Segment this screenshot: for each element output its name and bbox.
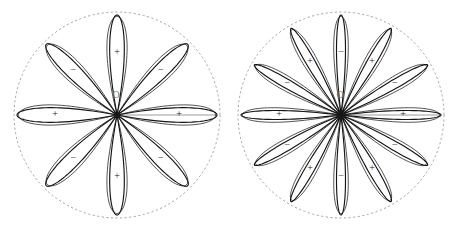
petal-sign-label: − (70, 152, 76, 163)
rose-petal (107, 115, 127, 215)
petal-sign-label: + (114, 170, 120, 181)
petal-sign-label: + (369, 55, 375, 66)
rose-petal (117, 44, 188, 115)
petal-sign-label: + (369, 162, 375, 173)
origin-label: O (112, 89, 119, 100)
twelve-petal-rose-svg: +−+−+−+−+−+−O (229, 0, 457, 230)
petal-outline-secondary (46, 44, 117, 115)
petal-outline (241, 111, 341, 120)
petal-sign-label: + (52, 108, 58, 119)
rose-petal (17, 105, 117, 125)
petal-sign-label: − (338, 46, 344, 57)
petal-outline (46, 44, 117, 115)
petal-outline-secondary (243, 108, 342, 123)
petal-sign-label: − (158, 64, 164, 75)
petal-sign-label: − (70, 64, 76, 75)
petal-outline (117, 44, 188, 115)
eight-petal-rose-svg: +−+−+−+−O (0, 0, 228, 230)
petal-outline (337, 115, 346, 215)
petal-sign-label: + (307, 162, 313, 173)
petal-outline (117, 115, 188, 186)
figure-left-eight-petal-rose: +−+−+−+−O (0, 0, 228, 230)
petal-outline-secondary (334, 115, 349, 214)
petal-sign-label: − (392, 77, 398, 88)
figure-right-twelve-petal-rose: +−+−+−+−+−+−O (229, 0, 457, 230)
petal-sign-label: + (400, 108, 406, 119)
petal-sign-label: − (158, 152, 164, 163)
petal-sign-label: − (338, 170, 344, 181)
rose-petal (241, 108, 341, 123)
origin-label: O (336, 89, 343, 100)
petal-sign-label: + (176, 108, 182, 119)
rose-petal (117, 115, 188, 186)
petal-sign-label: − (392, 139, 398, 150)
petal-sign-label: − (284, 139, 290, 150)
petal-sign-label: − (284, 77, 290, 88)
petal-outline-secondary (117, 44, 188, 115)
petal-outline (46, 115, 117, 186)
rose-petal (334, 115, 349, 215)
petal-sign-label: + (114, 46, 120, 57)
petal-sign-label: + (276, 108, 282, 119)
petal-outline (17, 108, 117, 123)
polar-rose-figure-pair: +−+−+−+−O +−+−+−+−+−+−O (0, 0, 457, 230)
petal-outline-secondary (46, 115, 117, 186)
petal-outline (110, 115, 125, 215)
petal-sign-label: + (307, 55, 313, 66)
petal-outline-secondary (117, 115, 188, 186)
rose-petal (46, 115, 117, 186)
rose-petal (46, 44, 117, 115)
